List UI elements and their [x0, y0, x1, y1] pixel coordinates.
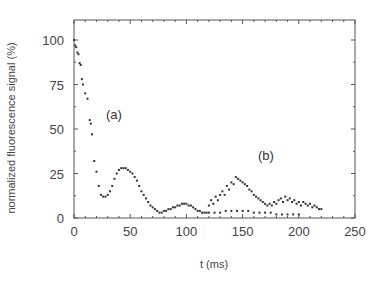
y-tick-label: 0 [57, 211, 64, 226]
series-a [73, 39, 300, 215]
y-tick-label: 50 [50, 122, 64, 137]
annotation-b: (b) [258, 148, 274, 163]
x-tick-label: 50 [123, 224, 137, 239]
data-points [73, 39, 322, 215]
y-tick-label: 25 [50, 167, 64, 182]
annotation-a: (a) [106, 107, 122, 122]
x-tick-label: 0 [70, 224, 77, 239]
y-axis-label: normalized fluorescence signal (%) [5, 42, 17, 213]
y-tick-label: 100 [42, 33, 64, 48]
axis-ticks: 0501001502002500255075100 [42, 20, 366, 239]
y-tick-label: 75 [50, 78, 64, 93]
series-b [208, 176, 322, 210]
x-tick-label: 250 [344, 224, 366, 239]
chart: 0501001502002500255075100 t (ms) normali… [0, 0, 381, 284]
x-tick-label: 200 [288, 224, 310, 239]
x-tick-label: 100 [176, 224, 198, 239]
x-tick-label: 150 [232, 224, 254, 239]
x-axis-label: t (ms) [200, 258, 228, 270]
